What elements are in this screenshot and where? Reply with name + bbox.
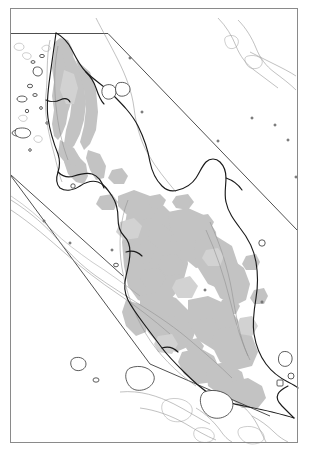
island-penang-shape: [15, 128, 31, 138]
island-small-g: [40, 107, 43, 110]
island-dot-12: [69, 242, 71, 244]
island-penang: [17, 96, 27, 102]
island-perhentian: [102, 85, 116, 100]
island-dot-6: [274, 124, 276, 126]
map-container: [0, 0, 309, 452]
island-langkawi-cluster: [33, 67, 42, 76]
island-pemanggil: [277, 380, 283, 386]
island-karimun: [71, 357, 86, 370]
island-east-cluster-a: [116, 82, 130, 96]
island-small-e: [33, 94, 37, 97]
island-dot-5: [287, 139, 289, 141]
island-dot-1: [129, 57, 131, 59]
island-tenggol: [288, 373, 294, 379]
island-dot-7: [295, 176, 297, 178]
island-small-d: [31, 61, 35, 64]
island-dot-9: [204, 289, 206, 291]
island-small-h: [46, 122, 48, 124]
map-canvas: [0, 0, 309, 452]
island-dot-8: [111, 249, 113, 251]
island-small-f: [25, 109, 28, 112]
island-redang: [259, 240, 265, 246]
island-dot-4: [251, 117, 253, 119]
island-dot-3: [217, 140, 219, 142]
island-dot-2: [141, 111, 143, 113]
island-pangkor: [71, 184, 75, 188]
island-tioman: [278, 351, 292, 366]
island-dot-10: [261, 301, 263, 303]
island-penyengat: [93, 378, 99, 382]
island-batam: [126, 366, 155, 390]
island-small-i: [29, 149, 32, 152]
island-small-b: [27, 84, 32, 88]
island-small-c: [40, 54, 45, 57]
island-dot-13: [114, 263, 119, 267]
